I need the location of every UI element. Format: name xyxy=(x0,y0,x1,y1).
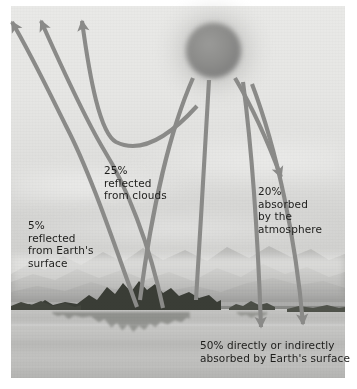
solar-radiation-diagram: 5% reflected from Earth's surface 25% re… xyxy=(0,0,357,389)
label-absorbed-by-atmosphere: 20% absorbed by the atmosphere xyxy=(258,185,322,235)
label-reflected-from-clouds: 25% reflected from clouds xyxy=(104,164,167,202)
label-absorbed-by-surface: 50% directly or indirectly absorbed by E… xyxy=(200,339,350,364)
label-reflected-from-surface: 5% reflected from Earth's surface xyxy=(28,219,94,269)
sun-icon xyxy=(186,23,241,78)
